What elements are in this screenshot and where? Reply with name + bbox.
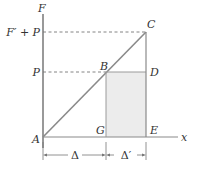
point-label-a: A <box>31 133 40 146</box>
axis-label-x: x <box>181 131 188 144</box>
point-label-c: C <box>147 18 156 31</box>
load-deflection-diagram: F x F′ + P P A B C D G E Δ Δ′ <box>0 0 199 170</box>
dimension-label-delta-prime: Δ′ <box>121 149 132 162</box>
level-label-lower: P <box>32 66 41 79</box>
point-label-d: D <box>149 66 159 79</box>
axis-label-f: F <box>37 2 46 15</box>
point-label-b: B <box>99 60 108 73</box>
dimension-label-delta: Δ <box>71 149 79 162</box>
point-label-g: G <box>96 124 105 137</box>
point-label-e: E <box>149 124 158 137</box>
level-label-upper: F′ + P <box>5 26 40 39</box>
shaded-area-bdeg <box>106 72 146 137</box>
